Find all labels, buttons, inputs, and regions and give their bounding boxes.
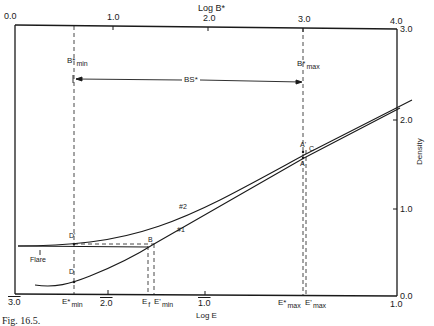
bottom-tick-3: 1.0 xyxy=(390,300,403,309)
point-a-prime xyxy=(302,151,304,153)
bottom-axis xyxy=(15,294,397,296)
curve-1 xyxy=(35,108,400,286)
right-axis-title: Density xyxy=(416,138,424,165)
tick-marks xyxy=(108,26,397,295)
plot-frame xyxy=(15,25,397,296)
curve-1-label: #1 xyxy=(177,226,185,233)
e-f-label: Ef xyxy=(142,298,150,306)
sensitometric-diagram xyxy=(0,0,434,326)
bottom-axis-title: Log E xyxy=(196,312,217,320)
point-d-prime xyxy=(73,243,76,246)
top-tick-3: 3.0 xyxy=(298,15,311,24)
figure-caption: Fig. 16.5. xyxy=(2,316,40,326)
right-tick-2: 2.0 xyxy=(400,116,413,125)
c-label: C xyxy=(309,145,314,152)
right-tick-1: 1.0 xyxy=(400,205,413,214)
point-a xyxy=(302,157,304,159)
e-min-label: E*min xyxy=(62,298,83,306)
d-prime-label: D' xyxy=(69,232,75,239)
dashed-guides xyxy=(74,26,306,295)
top-tick-0: 0.0 xyxy=(4,12,17,21)
bs-label: BS* xyxy=(184,76,198,84)
point-markers xyxy=(40,151,304,284)
flare-label: Flare xyxy=(30,256,46,263)
right-tick-3: 3.0 xyxy=(400,25,413,34)
bottom-tick-0: 3.0 xyxy=(8,298,21,307)
point-d xyxy=(73,281,76,284)
b-label: B xyxy=(148,236,153,243)
a-prime-label: A' xyxy=(300,141,306,148)
bottom-tick-2: 1.0 xyxy=(198,299,211,308)
b-min-label: B*min xyxy=(67,57,88,65)
e-max-label: E*max xyxy=(278,299,301,307)
a-label: A xyxy=(300,160,305,167)
top-tick-1: 1.0 xyxy=(107,13,120,22)
b-max-label: B*max xyxy=(297,60,320,68)
d-label: D xyxy=(69,268,74,275)
e-prime-max-label: E'max xyxy=(305,299,326,307)
e-prime-min-label: E'min xyxy=(154,298,173,306)
top-axis xyxy=(15,25,397,29)
curve-2-label: #2 xyxy=(179,203,187,210)
top-axis-title: Log B* xyxy=(198,4,225,13)
curve-2 xyxy=(18,100,412,246)
top-tick-2: 2.0 xyxy=(203,14,216,23)
bottom-tick-1: 2.0 xyxy=(100,299,113,308)
